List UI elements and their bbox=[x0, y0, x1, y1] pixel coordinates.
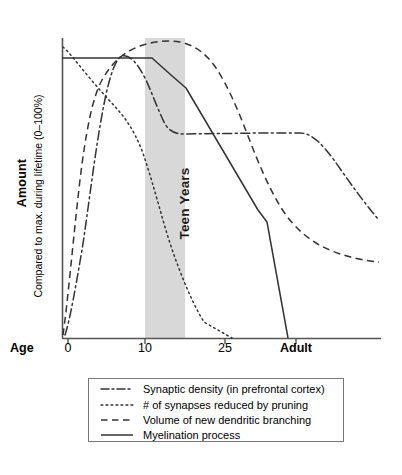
series-dendritic-branching bbox=[63, 41, 379, 335]
x-tick-label-adult: Adult bbox=[266, 341, 326, 355]
legend-item-dendritic-branching: Volume of new dendritic branching bbox=[89, 412, 343, 428]
legend-item-synapse-pruning: # of synapses reduced by pruning bbox=[89, 397, 343, 413]
legend-item-myelination: Myelination process bbox=[89, 427, 343, 443]
legend-label-synapse-pruning: # of synapses reduced by pruning bbox=[143, 399, 308, 411]
legend-swatch-solid-icon bbox=[100, 429, 134, 441]
y-axis-title-sub: Compared to max. during lifetime (0–100%… bbox=[32, 66, 44, 326]
y-axis-title-main: Amount bbox=[15, 53, 29, 313]
brain-development-chart: Amount Compared to max. during lifetime … bbox=[0, 0, 402, 475]
legend-label-dendritic-branching: Volume of new dendritic branching bbox=[143, 414, 311, 426]
x-tick-label-0: 0 bbox=[53, 341, 83, 355]
series-synaptic-density bbox=[65, 56, 378, 335]
legend-swatch-dash-dot-icon bbox=[100, 383, 134, 395]
legend-swatch-dashed-icon bbox=[100, 414, 134, 426]
legend: Synaptic density (in prefrontal cortex) … bbox=[88, 378, 344, 442]
y-axis-title-group: Amount Compared to max. during lifetime … bbox=[0, 38, 58, 338]
x-tick-label-10: 10 bbox=[130, 341, 160, 355]
legend-swatch-dotted-icon bbox=[100, 399, 134, 411]
legend-label-synaptic-density: Synaptic density (in prefrontal cortex) bbox=[143, 383, 325, 395]
legend-item-synaptic-density: Synaptic density (in prefrontal cortex) bbox=[89, 381, 343, 397]
x-tick-label-25: 25 bbox=[210, 341, 240, 355]
x-axis-name: Age bbox=[10, 341, 34, 355]
teen-years-band bbox=[145, 38, 185, 338]
legend-label-myelination: Myelination process bbox=[143, 429, 240, 441]
